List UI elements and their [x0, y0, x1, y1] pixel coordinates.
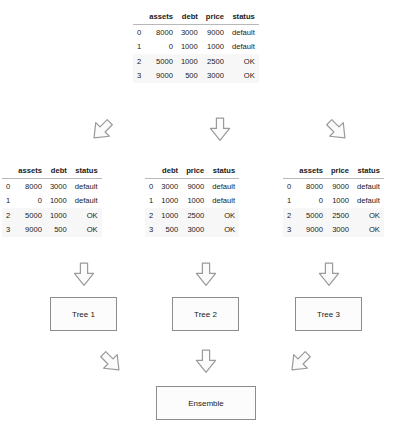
- table-row: 1 1000 1000 default: [145, 194, 239, 209]
- cell-debt: 3000: [157, 179, 182, 194]
- table-row: 0 8000 9000 default: [283, 179, 384, 194]
- row-index: 1: [145, 194, 157, 209]
- tree-node-2[interactable]: Tree 2: [172, 297, 239, 331]
- down-right-block-arrow-icon: [318, 111, 360, 153]
- table-row: 0 3000 9000 default: [145, 179, 239, 194]
- tree-node-3[interactable]: Tree 3: [295, 297, 362, 331]
- table-header-row: assets debt status: [2, 163, 102, 179]
- tree-node-3-label: Tree 3: [317, 310, 340, 319]
- table-header-row: assets debt price status: [133, 9, 259, 25]
- cell-assets: 0: [295, 194, 327, 209]
- row-index: 1: [133, 40, 145, 55]
- table-row: 0 8000 3000 9000 default: [133, 25, 259, 40]
- ensemble-node-label: Ensemble: [188, 399, 224, 408]
- column-header-status: status: [353, 163, 384, 179]
- row-index: 2: [2, 208, 14, 223]
- down-block-arrow-icon: [314, 262, 344, 292]
- cell-assets: 5000: [295, 208, 327, 223]
- row-index: 3: [145, 223, 157, 238]
- column-header-index: [145, 163, 157, 179]
- cell-debt: 500: [46, 223, 71, 238]
- table-row: 3 500 3000 OK: [145, 223, 239, 238]
- column-header-index: [283, 163, 295, 179]
- cell-debt: 500: [177, 69, 202, 84]
- cell-status: OK: [208, 208, 239, 223]
- cell-price: 1000: [327, 194, 353, 209]
- row-index: 2: [145, 208, 157, 223]
- cell-status: OK: [71, 208, 102, 223]
- table-row: 2 5000 1000 OK: [2, 208, 102, 223]
- subset-dataframe-table-2: debt price status 0 3000 9000 default 1 …: [145, 163, 239, 237]
- down-right-block-arrow-icon: [92, 343, 134, 385]
- subset-dataframe-table-1: assets debt status 0 8000 3000 default 1…: [2, 163, 102, 237]
- cell-debt: 500: [157, 223, 182, 238]
- subset-dataframe-table-3: assets price status 0 8000 9000 default …: [283, 163, 384, 237]
- row-index: 2: [283, 208, 295, 223]
- cell-price: 2500: [327, 208, 353, 223]
- table-row: 1 0 1000 default: [283, 194, 384, 209]
- down-block-arrow-icon: [191, 349, 221, 379]
- row-index: 1: [2, 194, 14, 209]
- cell-debt: 1000: [46, 208, 71, 223]
- tree-node-1[interactable]: Tree 1: [50, 297, 117, 331]
- tree-node-1-label: Tree 1: [72, 310, 95, 319]
- table-row: 1 0 1000 default: [2, 194, 102, 209]
- table-row: 3 9000 500 OK: [2, 223, 102, 238]
- cell-status: OK: [228, 69, 259, 84]
- cell-price: 1000: [182, 194, 208, 209]
- cell-status: default: [71, 179, 102, 194]
- cell-debt: 1000: [157, 194, 182, 209]
- cell-assets: 5000: [14, 208, 46, 223]
- cell-assets: 9000: [145, 69, 177, 84]
- down-left-block-arrow-icon: [79, 111, 121, 153]
- table-header-row: debt price status: [145, 163, 239, 179]
- cell-status: default: [208, 194, 239, 209]
- down-block-arrow-icon: [69, 262, 99, 292]
- cell-price: 3000: [327, 223, 353, 238]
- cell-price: 3000: [182, 223, 208, 238]
- cell-debt: 1000: [157, 208, 182, 223]
- row-index: 0: [2, 179, 14, 194]
- cell-price: 9000: [202, 25, 228, 40]
- row-index: 3: [2, 223, 14, 238]
- row-index: 0: [283, 179, 295, 194]
- cell-status: default: [228, 25, 259, 40]
- column-header-status: status: [228, 9, 259, 25]
- cell-assets: 9000: [14, 223, 46, 238]
- row-index: 0: [145, 179, 157, 194]
- column-header-assets: assets: [145, 9, 177, 25]
- cell-assets: 9000: [295, 223, 327, 238]
- column-header-price: price: [327, 163, 353, 179]
- down-left-block-arrow-icon: [277, 343, 319, 385]
- table-row: 3 9000 3000 OK: [283, 223, 384, 238]
- cell-status: OK: [71, 223, 102, 238]
- down-block-arrow-icon: [191, 262, 221, 292]
- table-row: 2 5000 1000 2500 OK: [133, 54, 259, 69]
- cell-price: 9000: [327, 179, 353, 194]
- cell-assets: 8000: [295, 179, 327, 194]
- column-header-debt: debt: [177, 9, 202, 25]
- cell-assets: 0: [14, 194, 46, 209]
- row-index: 1: [283, 194, 295, 209]
- column-header-status: status: [71, 163, 102, 179]
- row-index: 3: [133, 69, 145, 84]
- row-index: 0: [133, 25, 145, 40]
- cell-price: 1000: [202, 40, 228, 55]
- cell-status: default: [228, 40, 259, 55]
- tree-node-2-label: Tree 2: [194, 310, 217, 319]
- cell-debt: 1000: [177, 40, 202, 55]
- table-row: 2 5000 2500 OK: [283, 208, 384, 223]
- cell-price: 2500: [182, 208, 208, 223]
- table-row: 1 0 1000 1000 default: [133, 40, 259, 55]
- table-row: 2 1000 2500 OK: [145, 208, 239, 223]
- cell-status: OK: [353, 223, 384, 238]
- column-header-price: price: [182, 163, 208, 179]
- cell-status: default: [353, 194, 384, 209]
- cell-assets: 8000: [145, 25, 177, 40]
- cell-debt: 3000: [177, 25, 202, 40]
- cell-status: OK: [228, 54, 259, 69]
- table-header-row: assets price status: [283, 163, 384, 179]
- master-dataframe-table: assets debt price status 0 8000 3000 900…: [133, 9, 259, 83]
- cell-price: 9000: [182, 179, 208, 194]
- ensemble-node[interactable]: Ensemble: [156, 386, 256, 420]
